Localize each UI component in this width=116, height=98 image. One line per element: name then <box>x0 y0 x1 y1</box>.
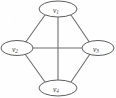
edge-v3-v4 <box>71 54 90 82</box>
edge-group <box>25 15 90 82</box>
graph-canvas: v1 v2 v3 v4 <box>0 0 116 98</box>
node-v1: v1 <box>39 1 77 17</box>
edge-v2-v4 <box>25 54 45 82</box>
node-v3: v3 <box>82 41 114 56</box>
node-v2: v2 <box>1 41 33 56</box>
edge-v1-v3 <box>71 15 90 43</box>
node-v4: v4 <box>39 80 77 96</box>
edge-v1-v2 <box>25 15 45 43</box>
graph-figure: v1 v2 v3 v4 <box>0 0 116 98</box>
